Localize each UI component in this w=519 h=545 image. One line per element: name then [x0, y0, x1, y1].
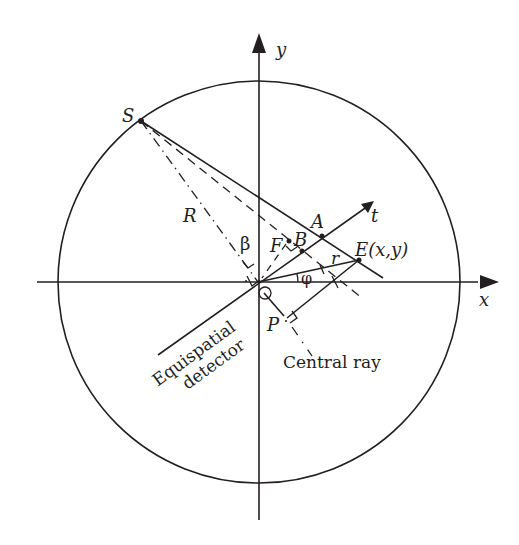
a-label: A [309, 211, 324, 232]
f-label: F [269, 235, 284, 256]
line-o-to-p [264, 293, 284, 316]
right-angle-p [290, 311, 297, 323]
e-label: E(x,y) [354, 239, 408, 260]
x-axis-label: x [479, 289, 489, 310]
point-a [320, 234, 325, 239]
y-axis-label: y [275, 39, 287, 60]
line-p-to-e [287, 260, 359, 318]
x-axis-arrow-icon [480, 275, 499, 289]
beta-label: β [240, 233, 250, 254]
p-label: P [266, 314, 280, 335]
point-s [138, 118, 144, 124]
b-label: B [293, 229, 307, 250]
point-p-dot [285, 320, 287, 322]
radius-label: R [182, 205, 197, 226]
source-label: S [122, 105, 134, 126]
ray-s-to-f [141, 121, 362, 298]
central-ray [141, 121, 258, 282]
y-axis-arrow-icon [252, 33, 266, 53]
t-axis-label: t [371, 205, 379, 226]
point-o-dot [245, 280, 247, 282]
phi-arc [297, 274, 298, 282]
fan-beam-geometry-diagram: y x t S R β F B A E(x,y) r φ P Central r… [0, 0, 519, 545]
central-ray-label: Central ray [283, 352, 381, 372]
r-label: r [331, 248, 340, 268]
ray-s-to-e [141, 121, 383, 278]
point-f [287, 239, 292, 244]
phi-label: φ [301, 269, 312, 288]
